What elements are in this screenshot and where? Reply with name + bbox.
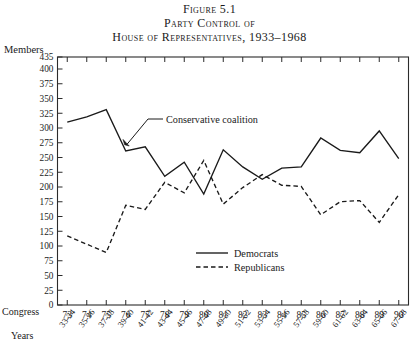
y-tick-label: 250	[40, 153, 54, 163]
x-year-label: 37-38	[96, 307, 116, 329]
x-year-label: 49-50	[213, 307, 233, 329]
annotation-label: Conservative coalition	[166, 114, 258, 125]
x-year-label: 59-60	[310, 307, 330, 329]
plot-frame	[58, 57, 409, 305]
x-year-label: 61-62	[330, 307, 350, 329]
y-tick-label: 100	[40, 241, 54, 251]
x-year-label: 33-34	[57, 307, 78, 330]
conservative-coalition-annotation: Conservative coalition	[123, 114, 258, 146]
y-tick-label: 350	[40, 94, 54, 104]
legend-label-republicans: Republicans	[234, 262, 284, 273]
y-tick-label: 50	[44, 271, 54, 281]
x-year-label: 47-48	[193, 307, 213, 329]
annotation-leader-line	[127, 119, 163, 144]
chart-legend: DemocratsRepublicans	[196, 248, 284, 273]
x-year-label: 41-42	[135, 307, 155, 329]
x-year-label: 63-64	[349, 307, 370, 330]
y-tick-label: 175	[40, 197, 54, 207]
line-chart: 0255075100125150175200225250275300325350…	[0, 0, 419, 361]
y-tick-label: 435	[40, 52, 54, 62]
x-year-label: 45-46	[174, 307, 195, 330]
x-year-label: 39-40	[115, 307, 135, 329]
y-tick-label: 75	[44, 256, 54, 266]
y-tick-label: 275	[40, 138, 54, 148]
y-tick-label: 25	[44, 286, 54, 296]
y-tick-label: 300	[40, 123, 54, 133]
x-year-label: 65-66	[369, 307, 390, 330]
x-year-label: 67-68	[388, 307, 408, 329]
y-tick-label: 225	[40, 168, 54, 178]
series-line-republicans	[67, 160, 399, 252]
y-tick-label: 400	[40, 64, 54, 74]
legend-label-democrats: Democrats	[234, 248, 278, 259]
x-year-label: 53-54	[252, 307, 273, 330]
series-group	[67, 110, 399, 253]
y-tick-label: 125	[40, 227, 54, 237]
x-axis-ticks	[67, 57, 399, 305]
x-year-label: 51-52	[232, 307, 252, 329]
y-tick-label: 200	[40, 182, 54, 192]
y-tick-label: 0	[49, 300, 54, 310]
y-axis-ticks: 0255075100125150175200225250275300325350…	[40, 52, 63, 310]
x-year-label: 35-36	[76, 307, 97, 330]
figure-container: Figure 5.1 Party Control of House of Rep…	[0, 0, 419, 361]
x-year-label: 43-44	[154, 307, 175, 330]
x-year-label: 55-56	[271, 307, 292, 330]
y-tick-label: 375	[40, 79, 54, 89]
y-tick-label: 150	[40, 212, 54, 222]
y-tick-label: 325	[40, 109, 54, 119]
x-year-label: 57-58	[291, 307, 311, 329]
